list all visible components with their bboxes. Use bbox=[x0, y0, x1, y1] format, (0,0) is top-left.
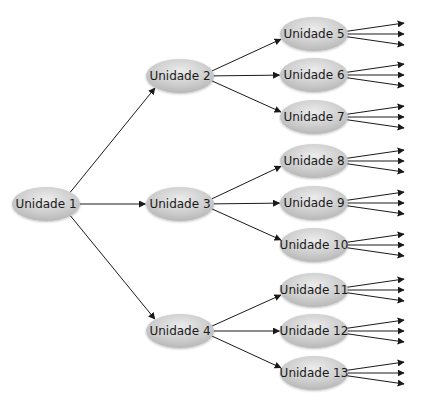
node-u11: Unidade 11 bbox=[280, 273, 349, 307]
node-u2: Unidade 2 bbox=[146, 59, 214, 93]
node-label: Unidade 1 bbox=[15, 197, 76, 211]
outgoing-arrow-u12-1 bbox=[347, 320, 404, 328]
node-u9: Unidade 9 bbox=[280, 186, 348, 220]
outgoing-arrow-u7-3 bbox=[347, 120, 404, 128]
edge-u1-to-u2 bbox=[70, 88, 155, 193]
node-u5: Unidade 5 bbox=[280, 17, 348, 51]
outgoing-arrow-u13-1 bbox=[347, 362, 404, 370]
outgoing-arrow-u8-3 bbox=[347, 164, 404, 172]
outgoing-arrow-u6-1 bbox=[347, 64, 404, 72]
node-u4: Unidade 4 bbox=[146, 314, 214, 348]
outgoing-arrow-u5-3 bbox=[347, 37, 404, 45]
node-u12: Unidade 12 bbox=[280, 314, 349, 348]
node-u10: Unidade 10 bbox=[280, 228, 349, 262]
node-label: Unidade 13 bbox=[280, 366, 349, 380]
outgoing-arrow-u9-3 bbox=[347, 206, 404, 214]
node-label: Unidade 2 bbox=[149, 69, 210, 83]
tree-diagram: Unidade 1Unidade 2Unidade 3Unidade 4Unid… bbox=[0, 0, 421, 404]
node-u7: Unidade 7 bbox=[280, 100, 348, 134]
node-u1: Unidade 1 bbox=[12, 187, 80, 221]
nodes-layer: Unidade 1Unidade 2Unidade 3Unidade 4Unid… bbox=[12, 17, 348, 390]
node-label: Unidade 7 bbox=[283, 110, 344, 124]
node-label: Unidade 4 bbox=[149, 324, 210, 338]
node-u3: Unidade 3 bbox=[146, 187, 214, 221]
node-label: Unidade 8 bbox=[283, 154, 344, 168]
node-label: Unidade 12 bbox=[280, 324, 349, 338]
outgoing-arrow-u8-1 bbox=[347, 150, 404, 158]
node-label: Unidade 5 bbox=[283, 27, 344, 41]
node-u6: Unidade 6 bbox=[280, 58, 348, 92]
edge-u3-to-u10 bbox=[212, 209, 281, 240]
outgoing-arrow-u10-1 bbox=[347, 234, 404, 242]
edge-u3-to-u9 bbox=[213, 203, 279, 204]
edge-u2-to-u6 bbox=[213, 75, 279, 76]
edge-u4-to-u11 bbox=[212, 295, 281, 326]
outgoing-arrow-u13-3 bbox=[347, 376, 404, 384]
node-label: Unidade 3 bbox=[149, 197, 210, 211]
node-u13: Unidade 13 bbox=[280, 356, 349, 390]
outgoing-arrow-u7-1 bbox=[347, 106, 404, 114]
edge-u4-to-u13 bbox=[212, 336, 281, 368]
edge-u2-to-u5 bbox=[212, 39, 281, 71]
edge-u1-to-u4 bbox=[70, 215, 155, 319]
outgoing-arrow-u9-1 bbox=[347, 192, 404, 200]
edges-layer bbox=[70, 23, 404, 384]
node-label: Unidade 9 bbox=[283, 196, 344, 210]
node-u8: Unidade 8 bbox=[280, 144, 348, 178]
outgoing-arrow-u11-1 bbox=[347, 279, 404, 287]
outgoing-arrow-u12-3 bbox=[347, 334, 404, 342]
node-label: Unidade 6 bbox=[283, 68, 344, 82]
outgoing-arrow-u11-3 bbox=[347, 293, 404, 301]
node-label: Unidade 11 bbox=[280, 283, 349, 297]
node-label: Unidade 10 bbox=[280, 238, 349, 252]
outgoing-arrow-u6-3 bbox=[347, 78, 404, 86]
edge-u3-to-u8 bbox=[212, 166, 281, 199]
outgoing-arrow-u10-3 bbox=[347, 248, 404, 256]
edge-u2-to-u7 bbox=[212, 81, 281, 112]
outgoing-arrow-u5-1 bbox=[347, 23, 404, 31]
